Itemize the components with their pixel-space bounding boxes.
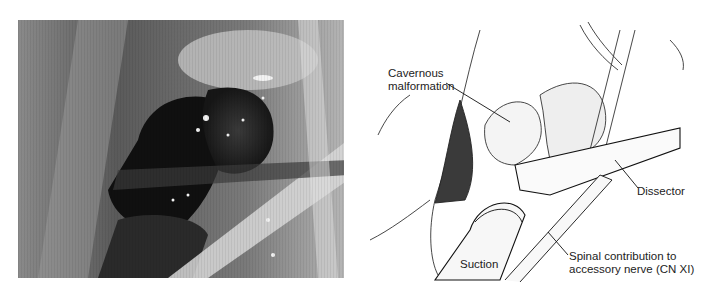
label-line: accessory nerve (CN XI) — [569, 263, 694, 276]
label-line: Spinal contribution to — [569, 250, 694, 263]
label-spinal-accessory-nerve: Spinal contribution to accessory nerve (… — [569, 250, 694, 276]
label-line: Cavernous — [388, 67, 454, 80]
label-cavernous-malformation: Cavernous malformation — [388, 67, 454, 93]
label-dissector: Dissector — [637, 185, 685, 198]
label-suction: Suction — [460, 258, 498, 271]
illustration-graphic — [350, 0, 701, 290]
intraoperative-photo — [18, 20, 344, 278]
label-line: malformation — [388, 80, 454, 93]
surgical-illustration: Cavernous malformation Dissector Suction… — [350, 0, 701, 290]
photo-graphic — [18, 20, 344, 278]
